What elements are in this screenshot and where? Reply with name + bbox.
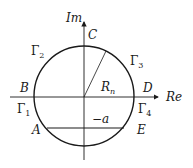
gamma4-label: Γ4 [138,102,151,118]
point-d-label: D [142,81,153,95]
point-a-label: A [31,123,41,137]
chord-label: −a [92,112,109,126]
point-b-label: B [19,81,29,95]
real-axis-label: Re [165,90,182,104]
radius-label: Rn [100,80,115,96]
point-e-label: E [136,123,146,137]
imag-axis-label: Im [65,11,82,25]
gamma2-label: Γ2 [31,44,44,60]
point-c-label: C [88,28,97,42]
gamma1-label: Γ1 [17,102,30,118]
contour-diagram: Im Re C B D A E Γ2 Γ3 Γ1 Γ4 Rn −a [0,0,193,168]
gamma3-label: Γ3 [130,54,143,70]
